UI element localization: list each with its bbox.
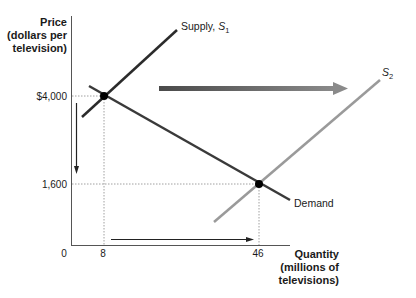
x-axis-title-line3: televisions): [278, 274, 339, 286]
supply-demand-chart: Price (dollars per television) $4,000 1,…: [0, 0, 416, 298]
supply-s1-line: [82, 30, 177, 117]
y-tick-1600: 1,600: [42, 179, 67, 190]
y-axis-title-line2: (dollars per: [7, 29, 68, 41]
x-axis-title-line2: (millions of: [280, 261, 339, 273]
supply-s1-label: Supply, S1: [181, 20, 229, 35]
y-axis-title-line1: Price: [40, 16, 67, 28]
equilibrium-point-initial: [100, 92, 108, 100]
y-tick-4000: $4,000: [36, 91, 67, 102]
origin-label: 0: [61, 248, 67, 259]
equilibrium-point-new: [255, 180, 263, 188]
quantity-increase-arrow: [111, 237, 254, 242]
x-tick-46: 46: [252, 248, 264, 259]
supply-shift-arrow: [159, 82, 348, 95]
x-tick-8: 8: [100, 248, 106, 259]
x-axis-title-line1: Quantity: [294, 248, 339, 260]
price-decrease-arrow: [74, 103, 79, 174]
supply-s2-label: S2: [382, 66, 393, 81]
y-axis-title-line3: television): [13, 42, 68, 54]
demand-label: Demand: [294, 197, 334, 209]
